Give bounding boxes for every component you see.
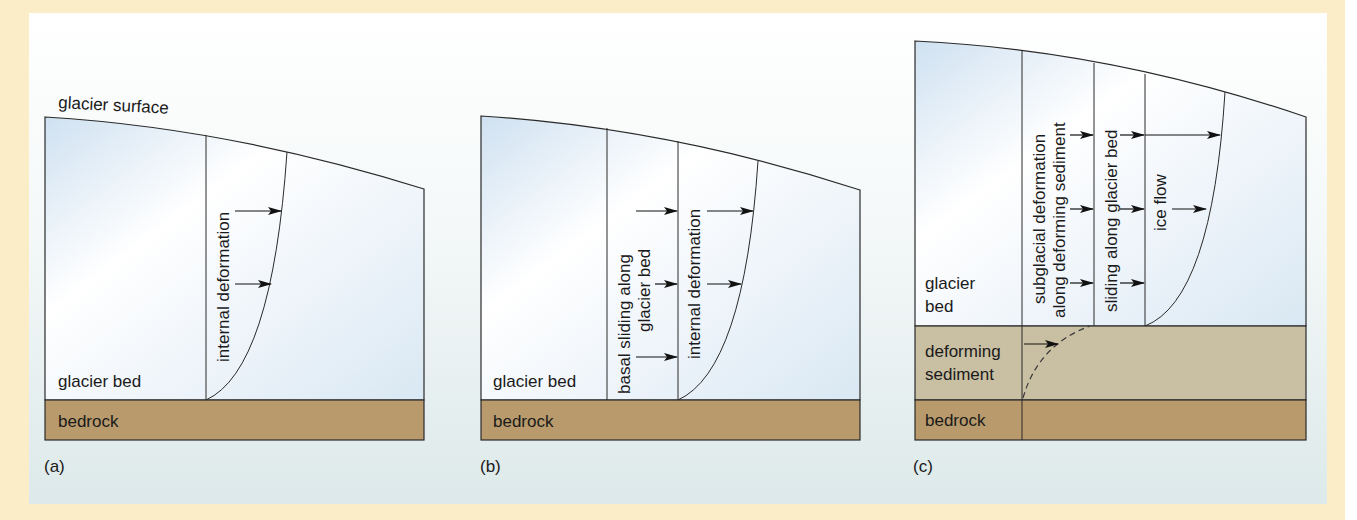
glacier-surface-label: glacier surface (58, 93, 169, 118)
glacier-flow-diagram: glacier surface internal deformation gla… (0, 0, 1357, 520)
ice-flow-label: ice flow (1151, 174, 1170, 231)
panel-b: basal sliding along glacier bed internal… (480, 116, 860, 476)
sliding-along-bed-label: sliding along glacier bed (1102, 130, 1121, 312)
internal-deformation-label: internal deformation (214, 212, 233, 362)
subglacial-deformation-label-line1: subglacial deformation (1030, 134, 1049, 304)
subglacial-deformation-label-line2: along deforming sediment (1050, 122, 1069, 318)
panel-c-caption: (c) (913, 457, 933, 476)
bedrock-label: bedrock (493, 412, 554, 431)
panel-b-caption: (b) (480, 457, 501, 476)
deforming-sediment-label-line2: sediment (925, 365, 994, 384)
basal-sliding-label-line2: glacier bed (635, 249, 654, 332)
bedrock-label: bedrock (58, 412, 119, 431)
glacier-bed-label: glacier bed (493, 372, 576, 391)
glacier-ice-body (45, 117, 424, 400)
panel-a-caption: (a) (44, 457, 65, 476)
bedrock-label: bedrock (925, 411, 986, 430)
glacier-bed-label-line1: glacier (925, 274, 975, 293)
internal-deformation-label: internal deformation (685, 209, 704, 359)
panel-c: subglacial deformation along deforming s… (913, 41, 1306, 476)
panel-a: glacier surface internal deformation gla… (44, 93, 424, 476)
glacier-bed-label: glacier bed (58, 372, 141, 391)
deforming-sediment-label-line1: deforming (925, 342, 1001, 361)
basal-sliding-label-line1: basal sliding along (615, 254, 634, 394)
deforming-sediment-layer (915, 326, 1306, 400)
glacier-bed-label-line2: bed (925, 297, 953, 316)
